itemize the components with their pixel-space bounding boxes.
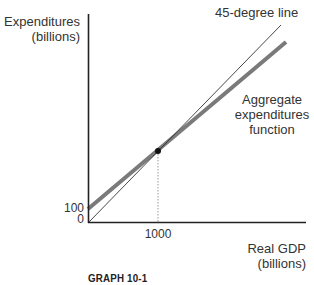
forty-five-degree-label: 45-degree line: [215, 5, 298, 20]
x-axis-label: Real GDP (billions): [220, 241, 306, 271]
y-axis-label-line1: Expenditures: [0, 14, 80, 29]
y-tick-0: 0: [40, 212, 84, 227]
ae-label-line3: function: [226, 122, 314, 137]
ae-label-line1: Aggregate: [226, 92, 314, 107]
ae-label-line2: expenditures: [226, 107, 314, 122]
y-axis-label: Expenditures (billions): [0, 14, 80, 44]
y-axis-label-line2: (billions): [0, 29, 80, 44]
x-axis-label-line1: Real GDP: [220, 241, 306, 256]
graph-caption: GRAPH 10-1: [88, 272, 147, 284]
x-tick-1000: 1000: [133, 227, 183, 242]
equilibrium-point: [155, 148, 161, 154]
x-axis-label-line2: (billions): [220, 256, 306, 271]
ae-function-label: Aggregate expenditures function: [226, 92, 314, 137]
